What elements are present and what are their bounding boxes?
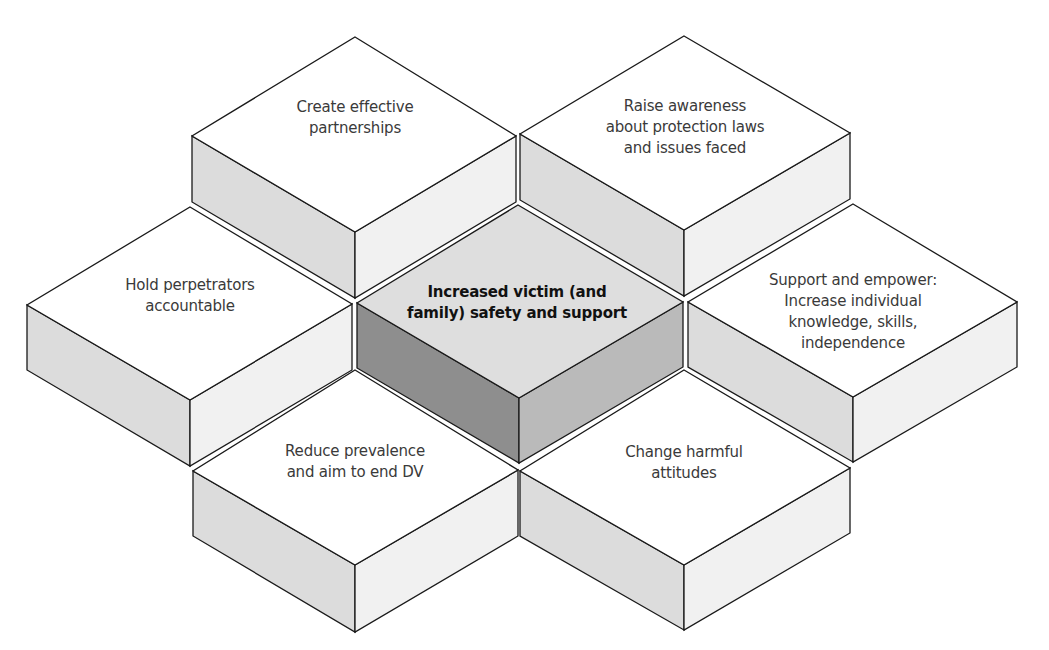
label-center: Increased victim (and family) safety and… [407, 282, 627, 324]
diagram-canvas: Create effective partnerships Raise awar… [0, 0, 1049, 650]
label-bottom-right: Change harmful attitudes [625, 442, 743, 484]
label-bottom-left: Reduce prevalence and aim to end DV [285, 441, 425, 483]
label-top-right: Raise awareness about protection laws an… [606, 96, 765, 159]
label-left: Hold perpetrators accountable [125, 275, 254, 317]
label-top-left: Create effective partnerships [297, 97, 414, 139]
label-right: Support and empower: Increase individual… [769, 270, 937, 354]
